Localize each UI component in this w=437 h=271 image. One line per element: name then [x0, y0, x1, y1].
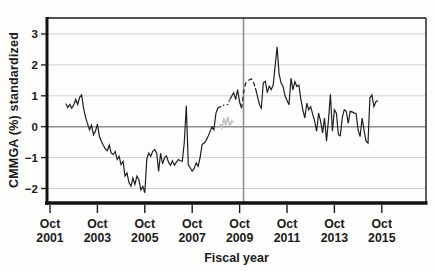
cmmga-standardized-monthly-path-solid: [66, 95, 220, 193]
y-tick-label-1: 1: [32, 90, 39, 102]
line-chart-figure: 3210−1−2Oct2001Oct2003Oct2005Oct2007Oct2…: [0, 0, 437, 271]
cmmga-standardized-monthly-path-solid: [230, 90, 242, 109]
x-tick-label-year-2005: 2005: [131, 231, 159, 245]
x-tick-label-year-2007: 2007: [179, 231, 207, 245]
x-tick-label-year-2011: 2011: [274, 231, 301, 245]
x-tick-label-year-2013: 2013: [321, 231, 349, 245]
y-axis-title: CMMGA (%) standardized: [7, 32, 21, 188]
y-tick-label--1: −1: [25, 152, 39, 164]
cmmga-standardized-monthly-path-solid: [255, 47, 378, 143]
cmmga-standardized-monthly-path-dotted: [220, 100, 230, 108]
cmmga-chart-canvas: 3210−1−2Oct2001Oct2003Oct2005Oct2007Oct2…: [0, 0, 437, 271]
y-tick-label-3: 3: [32, 28, 38, 40]
x-tick-label-month-2013: Oct: [324, 217, 345, 231]
y-tick-label-0: 0: [32, 121, 38, 133]
x-tick-label-month-2005: Oct: [135, 217, 156, 231]
y-tick-label-2: 2: [32, 59, 38, 71]
x-tick-label-year-2003: 2003: [84, 231, 112, 245]
x-tick-label-month-2003: Oct: [87, 217, 108, 231]
x-tick-label-month-2015: Oct: [372, 217, 393, 231]
x-tick-label-year-2001: 2001: [36, 231, 64, 245]
y-tick-label--2: −2: [25, 183, 38, 195]
x-tick-label-month-2007: Oct: [182, 217, 203, 231]
x-tick-label-month-2001: Oct: [40, 217, 61, 231]
x-tick-label-year-2009: 2009: [226, 231, 254, 245]
x-tick-label-month-2009: Oct: [229, 217, 250, 231]
x-tick-label-month-2011: Oct: [277, 217, 298, 231]
x-axis-title: Fiscal year: [47, 251, 426, 265]
x-tick-label-year-2015: 2015: [368, 231, 396, 245]
